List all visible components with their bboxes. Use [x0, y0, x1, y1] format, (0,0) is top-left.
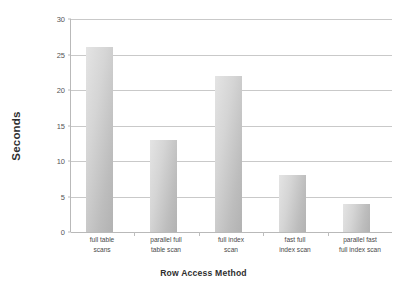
x-tick-mark	[263, 232, 264, 236]
x-category-label-line2: full index scan	[322, 245, 398, 255]
y-tick-label-20: 20	[57, 86, 65, 95]
x-category-label-line1: fast full	[285, 236, 306, 243]
x-category-label-line1: full table	[90, 236, 115, 243]
x-category-label: parallel fastfull index scan	[322, 235, 398, 254]
bar	[215, 76, 242, 232]
y-tick-label-15: 15	[57, 121, 65, 130]
x-axis-title: Row Access Method	[0, 268, 407, 278]
y-tick-label-5: 5	[61, 192, 65, 201]
y-axis-title-text: Seconds	[10, 111, 22, 160]
gridline-0	[71, 232, 392, 233]
y-tick-label-30: 30	[57, 15, 65, 24]
x-tick-mark	[199, 232, 200, 236]
bar-chart: Seconds 051015202530 full tablescanspara…	[0, 0, 407, 289]
bar-series	[70, 19, 392, 232]
x-tick-mark	[328, 232, 329, 236]
x-tick-mark	[134, 232, 135, 236]
y-tick-label-25: 25	[57, 50, 65, 59]
x-category-label-line1: parallel fast	[343, 236, 377, 243]
bar	[86, 47, 113, 232]
x-category-label-line1: parallel full	[150, 236, 182, 243]
bar	[279, 175, 306, 232]
x-axis-category-labels: full tablescansparallel fulltable scanfu…	[70, 235, 392, 261]
x-category-label-line1: full index	[218, 236, 244, 243]
bar	[150, 140, 177, 232]
y-tick-label-10: 10	[57, 157, 65, 166]
bar	[343, 204, 370, 232]
y-axis-title: Seconds	[9, 86, 23, 186]
